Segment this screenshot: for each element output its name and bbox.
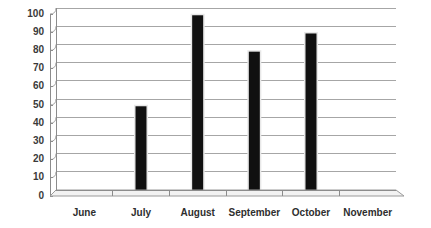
bar (136, 106, 147, 190)
x-axis-tick-label: September (228, 207, 280, 218)
y-axis-tick-label: 10 (33, 171, 45, 182)
chart-canvas: 0102030405060708090100 JuneJulyAugustSep… (0, 0, 431, 228)
bar-chart-figure: 0102030405060708090100 JuneJulyAugustSep… (0, 0, 431, 228)
y-axis-tick-label: 20 (33, 153, 45, 164)
y-axis-tick-label: 0 (38, 190, 44, 201)
y-axis-tick-label: 90 (33, 26, 45, 37)
x-axis-baseline-face (50, 190, 404, 196)
y-axis-tick-label: 50 (33, 99, 45, 110)
bar (249, 52, 260, 190)
y-axis-tick-label: 80 (33, 44, 45, 55)
x-axis-tick-label: June (73, 207, 97, 218)
y-axis-tick-label: 60 (33, 80, 45, 91)
bar (306, 33, 317, 190)
y-axis-tick-label: 70 (33, 62, 45, 73)
x-axis-group (50, 190, 404, 196)
x-axis-tick-label: August (180, 207, 215, 218)
y-axis-tick-label: 40 (33, 117, 45, 128)
x-axis-tick-label: November (343, 207, 392, 218)
y-axis-tick-label: 100 (27, 8, 44, 19)
plot-area (56, 8, 396, 193)
y-axis-tick-label: 30 (33, 135, 45, 146)
bar (192, 15, 203, 190)
x-axis-tick-label: October (292, 207, 330, 218)
x-axis-tick-label: July (131, 207, 151, 218)
plot-background (56, 8, 396, 193)
